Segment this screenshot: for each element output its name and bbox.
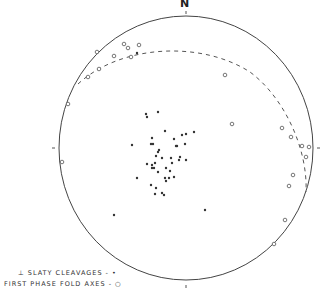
cleavage-pole-point <box>146 116 148 118</box>
cleavage-pole-point <box>165 180 167 182</box>
cleavage-pole-point <box>163 194 165 196</box>
cleavage-pole-point <box>204 209 206 211</box>
cleavage-pole-point <box>150 143 152 145</box>
cleavage-pole-point <box>165 167 167 169</box>
fold-axis-point <box>126 46 130 50</box>
fold-axis-point <box>283 218 287 222</box>
cleavage-pole-point <box>145 113 147 115</box>
cleavage-pole-point <box>157 111 159 113</box>
cleavage-pole-point <box>161 157 163 159</box>
cleavage-pole-point <box>173 176 175 178</box>
cleavage-pole-point <box>155 187 157 189</box>
cleavage-pole-point <box>157 151 159 153</box>
cleavage-pole-point <box>179 156 181 158</box>
cleavage-pole-point <box>136 177 138 179</box>
stereonet-diagram: N ⊥ SLATY CLEAVAGES - • FIRST PHASE FOLD… <box>0 0 323 297</box>
fold-axis-point <box>66 102 70 106</box>
fold-axis-point <box>291 173 295 177</box>
fold-axis-point <box>307 145 311 149</box>
cleavage-pole-point <box>150 184 152 186</box>
cleavage-pole-point <box>151 164 153 166</box>
fold-axis-point <box>112 54 116 58</box>
fold-axis-point <box>122 42 126 46</box>
fold-axis-point <box>289 135 293 139</box>
cleavage-pole-point <box>175 145 177 147</box>
cleavage-pole-point <box>146 163 148 165</box>
cleavage-pole-point <box>154 162 156 164</box>
legend-label: SLATY CLEAVAGES - • <box>28 269 117 277</box>
fold-axis-point <box>97 67 101 71</box>
fold-axis-point <box>95 50 99 54</box>
cleavage-pole-point <box>113 214 115 216</box>
cleavage-pole-point <box>185 159 187 161</box>
fold-axis-point <box>86 75 90 79</box>
cleavage-pole-point <box>153 167 155 169</box>
fold-axis-point <box>304 155 308 159</box>
fold-axis-point <box>137 43 141 47</box>
cleavage-pole-point <box>168 177 170 179</box>
legend-label: FIRST PHASE FOLD AXES - ○ <box>4 280 122 288</box>
cleavage-pole-point <box>161 192 163 194</box>
cleavage-pole-point <box>184 143 186 145</box>
fold-axis-point <box>230 122 234 126</box>
cleavage-pole-point <box>131 144 133 146</box>
legend-fold-axes: FIRST PHASE FOLD AXES - ○ <box>4 280 122 288</box>
stereonet-plot <box>0 0 323 297</box>
fold-axis-point <box>287 184 291 188</box>
cleavage-pole-point <box>193 131 195 133</box>
cleavage-pole-point <box>136 52 138 54</box>
cleavage-pole-point <box>185 133 187 135</box>
cleavage-pole-point <box>173 138 175 140</box>
cleavage-pole-point <box>169 170 171 172</box>
fold-axis-point <box>129 55 133 59</box>
fold-axis-point <box>223 73 227 77</box>
primitive-circle <box>59 16 313 280</box>
cleavage-pole-point <box>170 157 172 159</box>
fold-axis-point <box>60 160 64 164</box>
fold-axis-point <box>300 144 304 148</box>
cleavage-pole-point <box>157 171 159 173</box>
cleavage-pole-point <box>154 193 156 195</box>
north-label: N <box>180 0 189 10</box>
cleavage-pole-point <box>178 159 180 161</box>
cleavage-pole-point <box>181 134 183 136</box>
great-circle-dashed <box>78 51 306 192</box>
cleavage-pole-point <box>164 130 166 132</box>
fold-axis-point <box>280 126 284 130</box>
fold-axis-point <box>272 242 276 246</box>
cleavage-pole-point <box>171 162 173 164</box>
legend-slaty-cleavages: ⊥ SLATY CLEAVAGES - • <box>18 269 117 277</box>
cleavage-pole-point <box>164 177 166 179</box>
cleavage-pole-point <box>151 137 153 139</box>
cleavage-pole-point <box>155 155 157 157</box>
perpendicular-icon: ⊥ <box>18 269 25 277</box>
